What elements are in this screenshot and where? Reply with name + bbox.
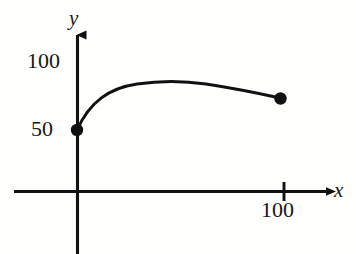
y-tick-label-100: 100 — [27, 50, 60, 72]
x-tick-label-100: 100 — [261, 199, 294, 221]
y-tick-label-50: 50 — [31, 118, 53, 140]
plot-canvas — [0, 0, 356, 254]
graph-figure: y x 100 50 100 — [0, 0, 356, 254]
curve-path — [77, 81, 280, 130]
left-endpoint-marker — [71, 124, 83, 136]
right-endpoint-marker — [274, 92, 286, 104]
x-axis-label: x — [334, 180, 343, 201]
y-axis-label: y — [69, 8, 78, 29]
